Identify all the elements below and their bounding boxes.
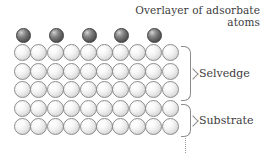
selvedge-label: Selvedge (199, 68, 250, 80)
selvedge-atom (14, 44, 31, 61)
adsorbate-atom (114, 28, 129, 43)
selvedge-atom (47, 44, 64, 61)
substrate-atom (80, 100, 97, 117)
overlayer-caption: Overlayer of adsorbate atoms (110, 5, 260, 28)
selvedge-atom (14, 81, 31, 98)
substrate-row (14, 118, 178, 136)
substrate-atom (162, 100, 179, 117)
selvedge-atom (30, 63, 47, 80)
adsorbate-atom (147, 28, 162, 43)
substrate-atom (80, 118, 97, 135)
selvedge-atom (112, 81, 129, 98)
substrate-atom (14, 118, 31, 135)
substrate-atom (145, 100, 162, 117)
substrate-atom (14, 100, 31, 117)
selvedge-row (14, 81, 178, 99)
selvedge-atom (145, 44, 162, 61)
adsorbate-atom (16, 28, 31, 43)
selvedge-atom (112, 63, 129, 80)
selvedge-atom (129, 81, 146, 98)
substrate-atom (96, 118, 113, 135)
substrate-atom (30, 100, 47, 117)
selvedge-atom (162, 81, 179, 98)
continuation-dotted-line (185, 138, 186, 153)
selvedge-atom (30, 44, 47, 61)
substrate-atom (162, 118, 179, 135)
surface-structure-diagram: Overlayer of adsorbate atoms Selvedge Su… (0, 0, 263, 156)
selvedge-atom (80, 81, 97, 98)
selvedge-atom (30, 81, 47, 98)
selvedge-atom (129, 63, 146, 80)
selvedge-atom (96, 63, 113, 80)
substrate-atom (112, 118, 129, 135)
selvedge-atom (47, 63, 64, 80)
substrate-row (14, 100, 178, 118)
selvedge-atom (63, 63, 80, 80)
substrate-atom (129, 100, 146, 117)
adsorbate-atom (49, 28, 64, 43)
substrate-atom (63, 118, 80, 135)
selvedge-atom (47, 81, 64, 98)
selvedge-atom (162, 63, 179, 80)
caption-line-2: atoms (110, 17, 260, 29)
substrate-atom (129, 118, 146, 135)
selvedge-atom (80, 44, 97, 61)
adsorbate-atom (82, 28, 97, 43)
substrate-atom (145, 118, 162, 135)
substrate-atom (47, 100, 64, 117)
selvedge-atom (112, 44, 129, 61)
selvedge-row (14, 63, 178, 81)
atom-lattice (14, 28, 178, 140)
selvedge-atom (145, 81, 162, 98)
selvedge-atom (80, 63, 97, 80)
substrate-atom (30, 118, 47, 135)
selvedge-atom (63, 81, 80, 98)
caption-line-1: Overlayer of adsorbate (110, 5, 260, 17)
substrate-atom (112, 100, 129, 117)
selvedge-atom (145, 63, 162, 80)
substrate-label: Substrate (199, 115, 253, 127)
substrate-atom (47, 118, 64, 135)
selvedge-atom (129, 44, 146, 61)
selvedge-atom (96, 44, 113, 61)
substrate-atom (96, 100, 113, 117)
selvedge-atom (162, 44, 179, 61)
selvedge-atom (96, 81, 113, 98)
selvedge-atom (63, 44, 80, 61)
selvedge-atom (14, 63, 31, 80)
selvedge-row (14, 44, 178, 62)
substrate-atom (63, 100, 80, 117)
